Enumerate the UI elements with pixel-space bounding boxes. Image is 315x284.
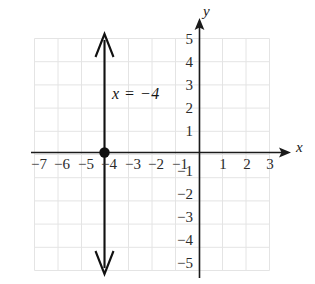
y-tick-label--4: −4 [164,233,193,248]
x-tick-label--7: −7 [28,157,50,172]
x-tick-label-1: 1 [212,157,234,172]
grid-lines [35,39,270,271]
graph-figure: −7 −6 −5 −4 −3 −2 −1 1 2 3 5 4 3 2 1 −1 … [0,0,315,284]
x-tick-label-3: 3 [259,157,281,172]
y-tick-label-5: 5 [168,32,193,47]
y-tick-label--2: −2 [164,187,193,202]
y-axis-label: y [203,4,210,19]
x-tick-label--4: −4 [98,157,120,172]
y-tick-label--5: −5 [164,256,193,271]
y-tick-label-4: 4 [168,55,193,70]
y-tick-label-2: 2 [168,101,193,116]
equation-annotation: x = −4 [112,86,160,102]
coordinate-plane-svg [0,0,315,284]
y-tick-label--1: −1 [164,164,193,179]
x-tick-label-2: 2 [236,157,258,172]
x-tick-label--3: −3 [122,157,144,172]
y-tick-label--3: −3 [164,210,193,225]
x-tick-label--6: −6 [51,157,73,172]
y-tick-label-1: 1 [168,124,193,139]
x-axis-label: x [296,140,303,155]
x-tick-label--5: −5 [75,157,97,172]
y-axis [195,18,205,278]
y-tick-label-3: 3 [168,78,193,93]
